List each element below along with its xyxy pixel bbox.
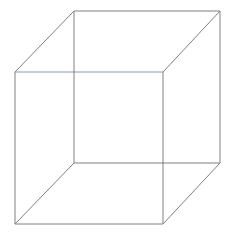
figure-background: [0, 0, 234, 232]
figure-canvas: [0, 0, 234, 232]
cube-wireframe-drawing: [0, 0, 234, 232]
